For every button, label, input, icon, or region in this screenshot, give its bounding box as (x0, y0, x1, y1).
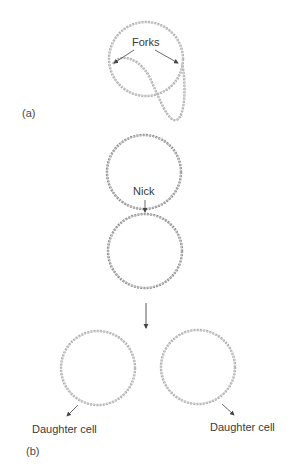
nick-label: Nick (133, 186, 154, 197)
panel-b-label: (b) (26, 446, 39, 457)
daughter-circle-right (161, 330, 235, 404)
daughter-circle-left (61, 331, 135, 405)
panel-a-label: (a) (22, 108, 35, 119)
diagram-canvas (0, 0, 292, 466)
forks-label: Forks (132, 37, 160, 48)
left-daughter-arrow (67, 405, 78, 416)
left-daughter-label: Daughter cell (32, 424, 97, 435)
catenane-top-circle (107, 135, 181, 209)
fork-arrows (114, 50, 178, 63)
catenane-bottom-circle (108, 214, 182, 288)
right-daughter-arrow (222, 404, 234, 415)
right-daughter-label: Daughter cell (210, 422, 275, 433)
